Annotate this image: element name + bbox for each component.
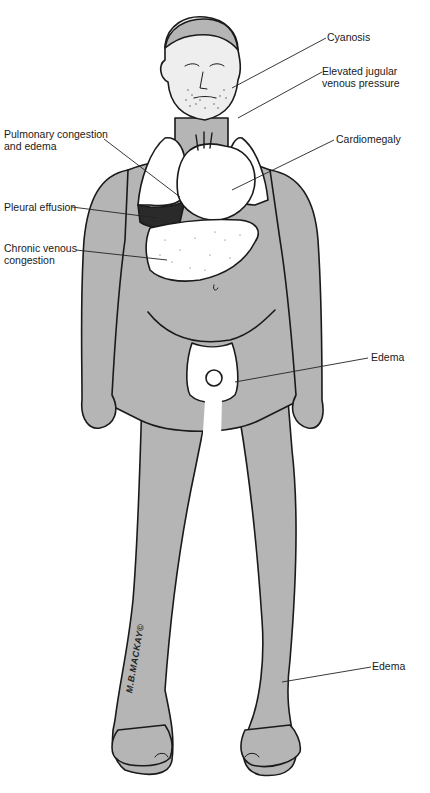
label-pulmonary-line2: and edema (4, 140, 57, 152)
anatomy-illustration (0, 0, 430, 793)
label-pulmonary-line1: Pulmonary congestion (4, 128, 108, 140)
leader-edema-ankle (282, 667, 371, 682)
label-cardiomegaly: Cardiomegaly (336, 133, 401, 145)
label-hepatic-line2: congestion (4, 254, 55, 266)
label-hepatic-line1: Chronic venous (4, 242, 77, 254)
right-foot (241, 725, 300, 767)
label-cyanosis: Cyanosis (327, 31, 370, 43)
testis (206, 370, 222, 386)
label-edema-scrotal: Edema (371, 351, 404, 363)
leader-jvp (238, 72, 322, 118)
left-foot (112, 725, 172, 766)
label-pleural-effusion: Pleural effusion (4, 201, 76, 213)
label-jvp-line2: venous pressure (322, 77, 400, 89)
label-edema-ankle: Edema (372, 660, 405, 672)
leader-cyanosis (232, 38, 326, 88)
heart (177, 144, 255, 220)
label-jvp-line1: Elevated jugular (322, 65, 397, 77)
right-leg (240, 400, 296, 776)
left-leg (112, 395, 205, 774)
